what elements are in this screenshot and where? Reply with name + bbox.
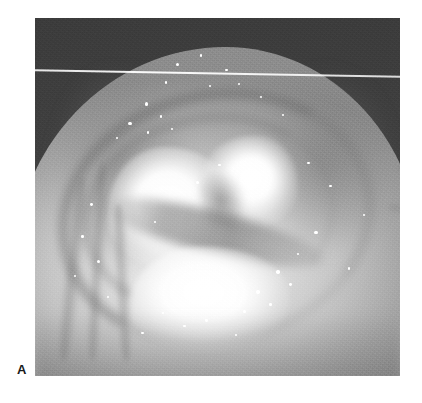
figure-root: A xyxy=(0,0,422,403)
film-grain-overlay-secondary xyxy=(35,18,400,376)
clinical-photograph xyxy=(35,18,400,376)
panel-label-a: A xyxy=(17,363,27,376)
